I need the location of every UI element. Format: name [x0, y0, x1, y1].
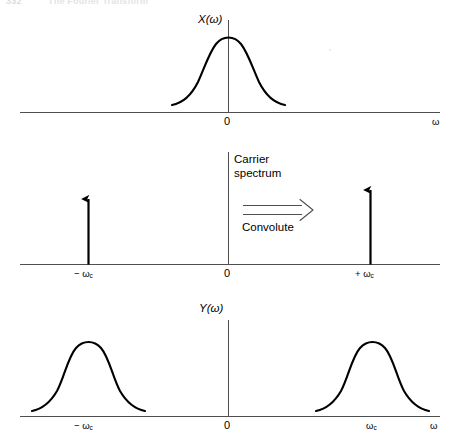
- scan-speck: [329, 49, 330, 50]
- carrier-spectrum-title-line2: spectrum: [234, 167, 281, 181]
- panel2-tick-negative-wc-sub: c: [90, 272, 93, 279]
- panel2-tick-negative-wc-text: − ω: [74, 268, 90, 279]
- figure-artwork: [0, 0, 456, 447]
- panel3-tick-label-positive-wc: ωc: [366, 421, 377, 432]
- panel3-origin-label: 0: [224, 420, 230, 431]
- panel2-tick-label-positive-wc: + ωc: [355, 269, 374, 280]
- panel3-tick-label-negative-wc: − ωc: [74, 421, 93, 432]
- panel1-axis-label: ω: [432, 117, 439, 127]
- panel-modulated-spectrum: [20, 320, 440, 417]
- panel3-tick-positive-wc-sub: c: [373, 424, 376, 431]
- panel2-origin-label: 0: [224, 268, 230, 279]
- panel3-tick-negative-wc-text: − ω: [74, 420, 90, 431]
- panel1-function-label: X(ω): [198, 14, 222, 26]
- figure-amplitude-modulation-spectra: 332 The Fourier Transform: [0, 0, 456, 447]
- upper-sideband-curve: [316, 342, 429, 411]
- panel3-function-label: Y(ω): [199, 303, 223, 315]
- lower-sideband-curve: [32, 342, 145, 411]
- convolute-arrow-icon: [243, 200, 313, 221]
- panel3-axis-label: ω: [430, 421, 437, 431]
- carrier-spectrum-title-line1: Carrier: [234, 153, 269, 167]
- panel-baseband-spectrum: [20, 20, 440, 113]
- panel2-tick-positive-wc-text: + ω: [355, 268, 371, 279]
- panel2-tick-label-negative-wc: − ωc: [74, 269, 93, 280]
- panel1-origin-label: 0: [224, 116, 230, 127]
- panel2-tick-positive-wc-sub: c: [371, 272, 374, 279]
- panel-carrier-spectrum: [20, 152, 440, 265]
- convolute-label: Convolute: [242, 221, 294, 235]
- panel3-tick-negative-wc-sub: c: [90, 424, 93, 431]
